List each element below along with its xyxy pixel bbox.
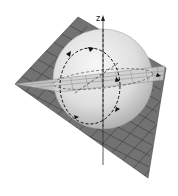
z-axis-label: z — [96, 14, 100, 23]
sphere-plane-diagram: z — [0, 0, 178, 196]
z-axis-arrow-icon — [101, 15, 105, 21]
